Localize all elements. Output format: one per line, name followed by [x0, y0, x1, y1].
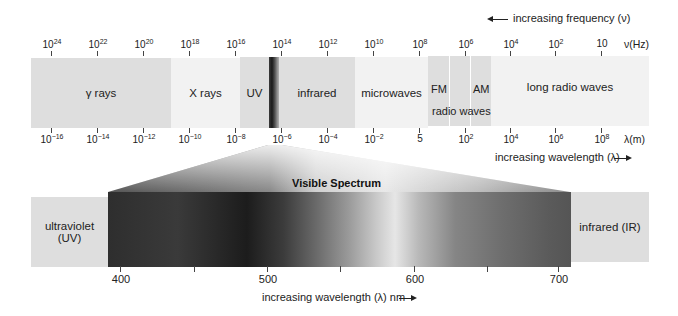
- uv-label-line1: ultraviolet: [45, 220, 94, 232]
- nm-tick-mark: [414, 266, 415, 272]
- nm-tick-label: 500: [259, 273, 277, 285]
- nm-tick-label: 600: [406, 273, 424, 285]
- ir-label: infrared (IR): [579, 221, 640, 233]
- nm-tick-mark: [267, 266, 268, 272]
- nm-tick-mark: [487, 266, 488, 272]
- nm-tick-mark: [558, 266, 559, 272]
- visible-spectrum-gradient: [108, 192, 571, 267]
- nm-tick-mark: [340, 266, 341, 272]
- arrow-line: [399, 298, 411, 299]
- visible-spectrum-title: Visible Spectrum: [292, 177, 381, 189]
- nm-axis-label: increasing wavelength (λ) nm: [262, 291, 405, 303]
- nm-tick-label: 400: [112, 273, 130, 285]
- nm-tick-mark: [194, 266, 195, 272]
- arrow-right-icon: [411, 295, 417, 301]
- visible-zoom-funnel: [0, 0, 678, 316]
- uv-label-line2: (UV): [58, 232, 82, 244]
- uv-region: ultraviolet (UV): [31, 197, 108, 267]
- ir-region: infrared (IR): [571, 192, 649, 262]
- nm-tick-label: 700: [550, 273, 568, 285]
- nm-tick-mark: [120, 266, 121, 272]
